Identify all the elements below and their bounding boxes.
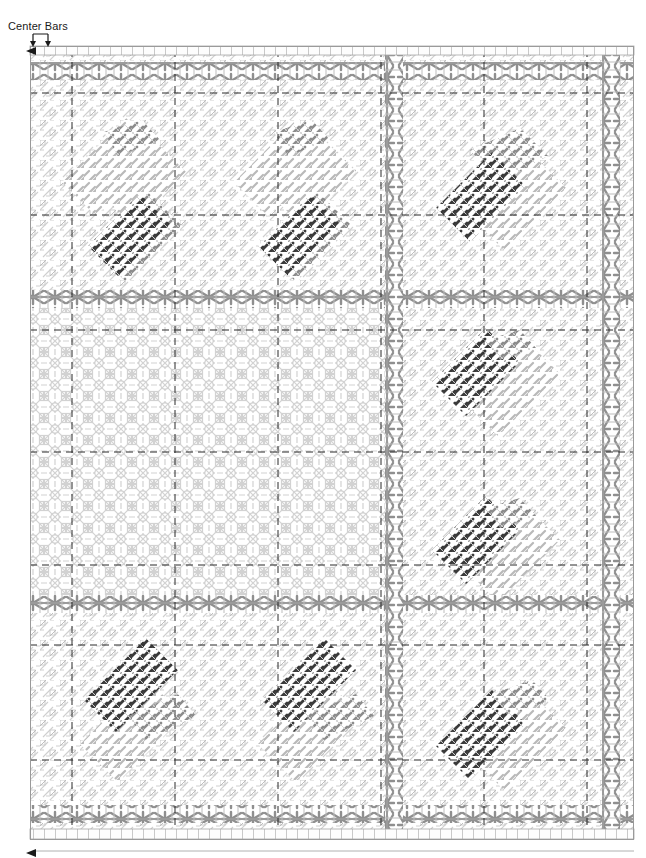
lattice-ground-region [30, 300, 385, 596]
bottom-rail [30, 829, 634, 839]
top-rail [30, 46, 634, 55]
vertical-band [602, 50, 620, 840]
weaving-draft-canvas [0, 0, 646, 858]
center-bars-callout [30, 34, 51, 47]
pattern-diagram: Center Bars [0, 0, 646, 858]
horizontal-band [30, 595, 634, 613]
vertical-band [385, 50, 403, 840]
horizontal-band [30, 805, 634, 823]
horizontal-band [30, 290, 634, 308]
weave-ground [30, 50, 634, 840]
horizontal-band [30, 62, 634, 80]
left-arrow-bottom-icon [26, 849, 36, 857]
